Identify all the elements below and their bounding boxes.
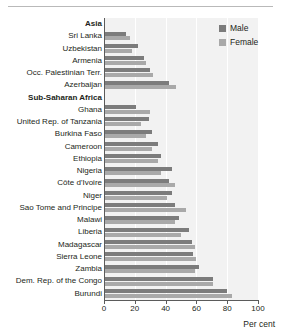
bar-female <box>105 36 130 40</box>
x-axis-line <box>104 300 259 301</box>
bar-male <box>105 191 172 195</box>
category-label: Burkina Faso <box>55 128 102 139</box>
bar-female <box>105 282 213 286</box>
chart-row: Madagascar <box>0 239 281 251</box>
category-label: Côte d'Ivoire <box>57 177 102 188</box>
chart-row: Nigeria <box>0 165 281 177</box>
legend-swatch-male-icon <box>219 25 226 32</box>
chart-row: Burundi <box>0 288 281 300</box>
category-label: Azerbaijan <box>64 79 102 90</box>
chart-row: United Rep. of Tanzania <box>0 116 281 128</box>
chart-row: Cameroon <box>0 141 281 153</box>
x-tick-label: 100 <box>251 304 264 314</box>
bar-female <box>105 147 152 151</box>
bar-male <box>105 240 192 244</box>
chart-row: Ghana <box>0 104 281 116</box>
legend-label-male: Male <box>230 22 248 35</box>
bar-female <box>105 233 181 237</box>
bar-male <box>105 68 150 72</box>
bar-female <box>105 245 195 249</box>
legend-swatch-female-icon <box>219 39 226 46</box>
bar-male <box>105 167 172 171</box>
chart-row: Armenia <box>0 55 281 67</box>
bar-male <box>105 228 189 232</box>
bar-female <box>105 294 232 298</box>
x-tick-label: 20 <box>130 304 139 314</box>
category-label: Niger <box>83 190 102 201</box>
category-label: Liberia <box>78 226 102 237</box>
bar-female <box>105 85 176 89</box>
bar-female <box>105 183 175 187</box>
x-tick-label: 40 <box>161 304 170 314</box>
bar-female <box>105 122 141 126</box>
chart-row: Sao Tome and Principe <box>0 202 281 214</box>
bar-male <box>105 265 199 269</box>
bar-male <box>105 81 169 85</box>
bar-female <box>105 208 186 212</box>
category-label: Ghana <box>78 104 102 115</box>
bar-male <box>105 277 213 281</box>
bar-female <box>105 73 153 77</box>
bar-female <box>105 269 195 273</box>
chart-row: Sub-Saharan Africa <box>0 92 281 104</box>
bar-female <box>105 49 132 53</box>
bar-male <box>105 179 169 183</box>
bar-female <box>105 220 175 224</box>
chart-row: Niger <box>0 190 281 202</box>
x-axis-title: Per cent <box>243 319 275 329</box>
bar-chart: 020406080100 AsiaSri LankaUzbekistanArme… <box>0 0 281 334</box>
x-tick-label: 0 <box>102 304 106 314</box>
bar-male <box>105 117 149 121</box>
x-tick-label: 80 <box>223 304 232 314</box>
chart-row: Côte d'Ivoire <box>0 177 281 189</box>
chart-row: Malawi <box>0 214 281 226</box>
bar-male <box>105 203 175 207</box>
category-label: Dem. Rep. of the Congo <box>16 275 102 286</box>
category-label: Asia <box>85 18 102 29</box>
bar-male <box>105 44 138 48</box>
bar-male <box>105 56 144 60</box>
category-label: Occ. Palestinian Terr. <box>27 67 102 78</box>
category-label: Sub-Saharan Africa <box>28 92 102 103</box>
category-label: Burundi <box>74 288 102 299</box>
category-label: Sao Tome and Principe <box>19 202 102 213</box>
top-divider <box>8 6 273 7</box>
chart-row: Liberia <box>0 226 281 238</box>
bar-female <box>105 257 196 261</box>
bar-male <box>105 105 136 109</box>
category-label: Sri Lanka <box>68 30 102 41</box>
category-label: Ethiopia <box>73 153 102 164</box>
bar-female <box>105 159 158 163</box>
chart-row: Dem. Rep. of the Congo <box>0 275 281 287</box>
chart-row: Ethiopia <box>0 153 281 165</box>
bar-female <box>105 134 146 138</box>
category-label: Armenia <box>72 55 102 66</box>
bar-male <box>105 216 179 220</box>
chart-row: Azerbaijan <box>0 79 281 91</box>
bar-female <box>105 110 150 114</box>
category-label: United Rep. of Tanzania <box>17 116 102 127</box>
category-label: Sierra Leone <box>56 251 102 262</box>
bar-female <box>105 196 167 200</box>
legend-label-female: Female <box>230 36 258 49</box>
chart-row: Sierra Leone <box>0 251 281 263</box>
chart-row: Zambia <box>0 263 281 275</box>
bar-male <box>105 252 193 256</box>
x-tick-label: 60 <box>192 304 201 314</box>
category-label: Zambia <box>75 263 102 274</box>
category-label: Uzbekistan <box>62 43 102 54</box>
chart-row: Burkina Faso <box>0 128 281 140</box>
category-label: Cameroon <box>65 141 102 152</box>
category-label: Malawi <box>77 214 102 225</box>
bar-male <box>105 142 158 146</box>
category-label: Nigeria <box>77 165 102 176</box>
category-label: Madagascar <box>58 239 102 250</box>
bar-male <box>105 289 227 293</box>
bar-female <box>105 61 146 65</box>
bar-male <box>105 154 161 158</box>
bar-male <box>105 32 126 36</box>
bar-female <box>105 171 161 175</box>
chart-row: Occ. Palestinian Terr. <box>0 67 281 79</box>
bar-male <box>105 130 152 134</box>
